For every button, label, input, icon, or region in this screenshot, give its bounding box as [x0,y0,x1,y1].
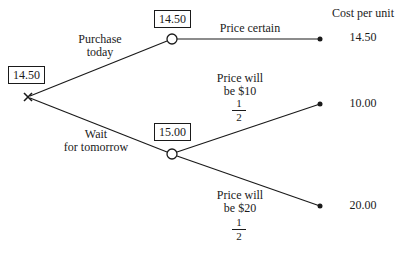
chance-node-purchase [167,34,177,44]
wait-label-line2: for tomorrow [56,141,136,154]
cost-10: 10.00 [343,97,383,110]
decision-value-box: 14.50 [8,66,45,84]
cost-20: 20.00 [343,199,383,212]
price-10-label: Price will be $10 [208,72,272,98]
branch-price-10 [177,104,320,152]
price-10-prob-numerator: 1 [232,98,246,109]
price-20-prob-numerator: 1 [232,217,246,228]
price-20-probability: 1 2 [232,217,246,242]
terminal-dot-certain [318,37,323,42]
terminal-dot-10 [318,102,323,107]
wait-label: Wait for tomorrow [56,128,136,154]
cost-per-unit-header: Cost per unit [328,7,398,20]
decision-node-x-icon [24,93,32,101]
price-20-prob-denominator: 2 [232,231,246,242]
price-20-label: Price will be $20 [208,189,272,215]
terminal-dot-20 [318,204,323,209]
purchase-node-value-box: 14.50 [154,10,191,28]
price-10-prob-denominator: 2 [232,112,246,123]
price-certain-label: Price certain [210,22,290,35]
price-10-probability: 1 2 [232,98,246,123]
purchase-today-label: Purchase today [70,33,130,59]
chance-node-wait [167,149,177,159]
price-20-label-line2: be $20 [208,202,272,215]
cost-certain: 14.50 [343,31,383,44]
wait-node-value-box: 15.00 [154,123,191,141]
purchase-today-label-line2: today [70,46,130,59]
